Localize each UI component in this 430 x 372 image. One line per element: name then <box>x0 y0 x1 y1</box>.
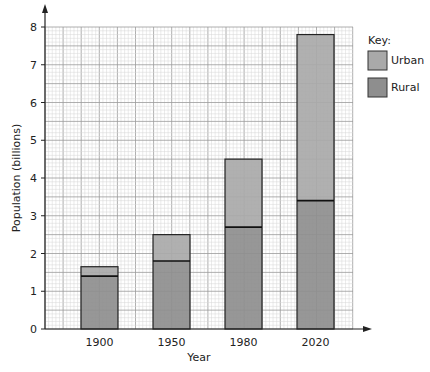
y-tick-label: 2 <box>30 248 37 261</box>
x-tick-label: 1950 <box>158 336 186 349</box>
stacked-bar-chart: 012345678 1900195019802020 Year Populati… <box>0 0 430 372</box>
y-axis-title: Population (billions) <box>10 124 23 233</box>
bar-segment-rural <box>81 276 118 329</box>
y-tick-label: 8 <box>30 21 37 34</box>
x-tick-label: 1900 <box>86 336 114 349</box>
bar-1950 <box>153 235 190 329</box>
y-tick-label: 0 <box>30 323 37 336</box>
y-tick-label: 5 <box>30 134 37 147</box>
x-tick-label: 1980 <box>230 336 258 349</box>
y-tick-labels: 012345678 <box>30 21 45 336</box>
bar-segment-rural <box>225 227 262 329</box>
y-tick-label: 7 <box>30 59 37 72</box>
legend-item-urban: Urban <box>368 51 424 70</box>
y-tick-label: 1 <box>30 285 37 298</box>
bar-segment-urban <box>153 235 190 261</box>
bar-segment-rural <box>297 201 334 329</box>
legend-title: Key: <box>368 34 391 47</box>
y-tick-label: 3 <box>30 210 37 223</box>
bar-2020 <box>297 35 334 329</box>
bar-1900 <box>81 267 118 329</box>
legend-swatch-rural <box>368 78 387 97</box>
bar-segment-urban <box>225 159 262 227</box>
x-tick-label: 2020 <box>302 336 330 349</box>
legend-item-rural: Rural <box>368 78 419 97</box>
x-axis-title: Year <box>186 351 211 364</box>
x-axis-arrow-icon <box>363 326 372 332</box>
legend: Key: Urban Rural <box>368 34 424 97</box>
legend-label-urban: Urban <box>391 54 424 67</box>
bar-segment-urban <box>81 267 118 276</box>
bar-segment-urban <box>297 35 334 201</box>
legend-swatch-urban <box>368 51 387 70</box>
x-tick-labels: 1900195019802020 <box>86 336 330 349</box>
bar-segment-rural <box>153 261 190 329</box>
y-axis-arrow-icon <box>42 4 48 13</box>
y-tick-label: 6 <box>30 97 37 110</box>
legend-label-rural: Rural <box>391 81 419 94</box>
y-tick-label: 4 <box>30 172 37 185</box>
bar-1980 <box>225 159 262 329</box>
